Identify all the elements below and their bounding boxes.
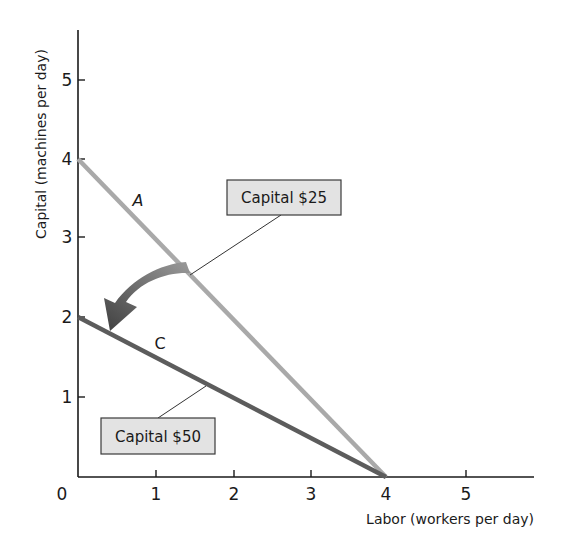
- rotation-arrow-icon: [104, 262, 190, 331]
- y-tick-label-4: 4: [62, 149, 73, 169]
- x-tick-label-2: 2: [229, 484, 240, 504]
- capital-50-label: Capital $50: [115, 428, 201, 446]
- y-tick-label-5: 5: [62, 70, 73, 90]
- y-tick-label-1: 1: [62, 387, 73, 407]
- x-tick-label-1: 1: [151, 484, 162, 504]
- capital-50-box: Capital $50: [101, 418, 215, 454]
- leader-line-25: [190, 215, 281, 275]
- y-axis-title: Capital (machines per day): [33, 49, 49, 239]
- line-c-label: C: [154, 334, 165, 353]
- axes: [78, 30, 534, 477]
- origin-label: 0: [57, 484, 68, 504]
- isocost-chart: 0 1 2 3 4 5 1 2 3 4 5 Labor (workers per…: [0, 0, 569, 550]
- x-tick-label-5: 5: [461, 484, 472, 504]
- capital-25-label: Capital $25: [241, 189, 327, 207]
- line-a-label: A: [132, 191, 144, 210]
- capital-25-box: Capital $25: [227, 180, 341, 215]
- y-tick-label-2: 2: [62, 307, 73, 327]
- x-tick-label-3: 3: [306, 484, 317, 504]
- x-axis-title: Labor (workers per day): [366, 511, 534, 527]
- y-tick-label-3: 3: [62, 227, 73, 247]
- x-tick-label-4: 4: [381, 484, 392, 504]
- leader-line-50: [158, 386, 206, 418]
